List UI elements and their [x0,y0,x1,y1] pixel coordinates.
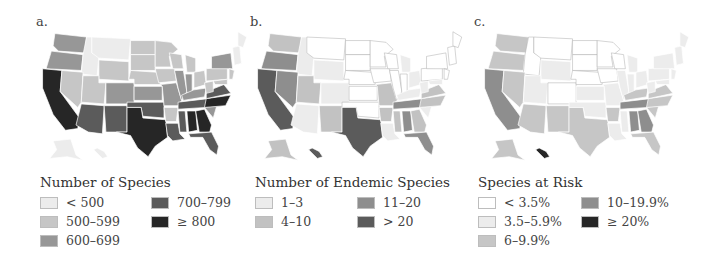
legend-label: 4–10 [281,214,311,229]
legend-label: ≥ 800 [177,214,215,229]
legend-label: 6–9.9% [504,233,550,248]
legend-label: ≥ 20% [607,214,649,229]
panel-c-species-at-risk: c. Species at Risk < 3.5% 3.5–5.9% [474,0,711,265]
legend-item-700-799: 700–799 [151,195,231,210]
legend-swatch [255,197,273,209]
legend-item-1-3: 1–3 [255,195,303,210]
panel-b-endemic-species: b. Number of Endemic Species 1–3 4–10 [237,0,474,265]
legend-swatch [478,216,496,228]
legend-swatch [581,216,599,228]
legend-swatch [478,197,496,209]
legend-swatch [151,216,169,228]
legend-label: > 20 [383,214,413,229]
legend-label: 1–3 [281,195,303,210]
legend-swatch [40,235,58,247]
legend-label: 10–19.9% [607,195,669,210]
us-map-species-count [32,22,252,170]
us-map-species-at-risk [474,22,694,170]
legend-item-10-19-9: 10–19.9% [581,195,669,210]
legend-swatch [581,197,599,209]
legend-label: 500–599 [66,214,120,229]
legend-label: < 500 [66,195,104,210]
legend-swatch [40,216,58,228]
legend-item-4-10: 4–10 [255,214,311,229]
legend-item-ge800: ≥ 800 [151,214,215,229]
legend-item-ge20: ≥ 20% [581,214,649,229]
legend-item-6-9-9: 6–9.9% [478,233,550,248]
legend-swatch [151,197,169,209]
legend-label: 700–799 [177,195,231,210]
legend-title: Number of Species [40,174,171,190]
legend-item-11-20: 11–20 [357,195,421,210]
legend-label: 600–699 [66,233,120,248]
legend-item-gt20: > 20 [357,214,413,229]
legend-swatch [478,235,496,247]
legend-label: 11–20 [383,195,421,210]
legend-swatch [357,216,375,228]
legend-item-500-599: 500–599 [40,214,120,229]
legend-title: Species at Risk [478,174,582,190]
us-map-endemic-species [247,22,467,170]
legend-item-600-699: 600–699 [40,233,120,248]
legend-label: 3.5–5.9% [504,214,562,229]
legend-item-lt3-5: < 3.5% [478,195,550,210]
legend-title: Number of Endemic Species [255,174,450,190]
legend-swatch [357,197,375,209]
legend-swatch [255,216,273,228]
panel-a-species-count: a. Number of Species < 500 500–599 [0,0,237,265]
legend-item-lt500: < 500 [40,195,104,210]
legend-swatch [40,197,58,209]
legend-label: < 3.5% [504,195,550,210]
legend-item-3-5-5-9: 3.5–5.9% [478,214,562,229]
